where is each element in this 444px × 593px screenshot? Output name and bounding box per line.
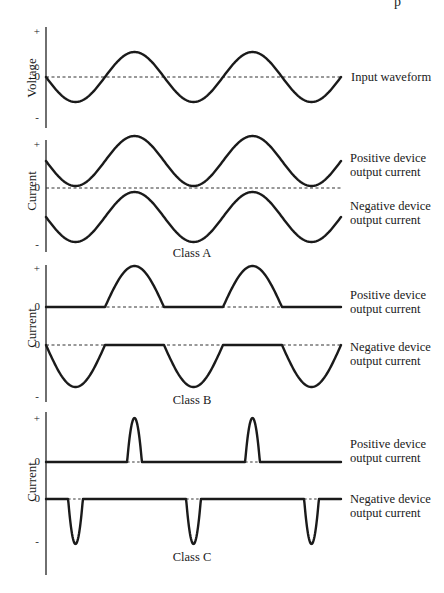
- tick-minus: -: [27, 111, 39, 123]
- class-c-negative-curve: [46, 499, 341, 544]
- class-a-title: Class A: [173, 246, 212, 261]
- tick-minus: -: [27, 390, 39, 402]
- class-b-positive-label-line1: Positive device: [350, 289, 426, 302]
- class-a-positive-label-line2: output current: [350, 166, 420, 179]
- tick-minus: -: [27, 535, 39, 547]
- class-a-positive-curve: [46, 136, 341, 186]
- class-b-negative-label-line1: Negative device: [350, 341, 431, 354]
- class-c-positive-label-line1: Positive device: [350, 438, 426, 451]
- tick-plus: +: [28, 25, 40, 37]
- tick-plus: +: [28, 138, 40, 150]
- class-b-negative-curve: [46, 345, 341, 387]
- class-c-negative-label-line2: output current: [350, 507, 420, 520]
- class-c-positive-label-line2: output current: [350, 452, 420, 465]
- class-b-positive-curve: [46, 266, 341, 307]
- tick-zero-positive: 0: [28, 455, 40, 467]
- class-a-negative-label-line1: Negative device: [350, 200, 431, 213]
- tick-zero-negative: 0: [28, 338, 40, 350]
- tick-zero-positive: 0: [28, 300, 40, 312]
- class-c-title: Class C: [173, 550, 212, 565]
- tick-zero-negative: 0: [28, 492, 40, 504]
- class-c-positive-curve: [46, 418, 341, 462]
- tick-plus: +: [28, 412, 40, 424]
- class-a-negative-label-line2: output current: [350, 214, 420, 227]
- class-b-title: Class B: [173, 393, 212, 408]
- tick-plus: +: [28, 262, 40, 274]
- tick-minus: -: [27, 238, 39, 250]
- class-a-positive-label-line1: Positive device: [350, 152, 426, 165]
- page-corner-text: p: [394, 0, 401, 10]
- tick-zero: 0: [28, 181, 40, 193]
- input-waveform-label: Input waveform: [351, 71, 431, 84]
- class-b-negative-label-line2: output current: [350, 355, 420, 368]
- class-c-negative-label-line1: Negative device: [350, 493, 431, 506]
- class-a-negative-curve: [46, 192, 341, 242]
- class-b-positive-label-line2: output current: [350, 303, 420, 316]
- tick-zero: 0: [28, 70, 40, 82]
